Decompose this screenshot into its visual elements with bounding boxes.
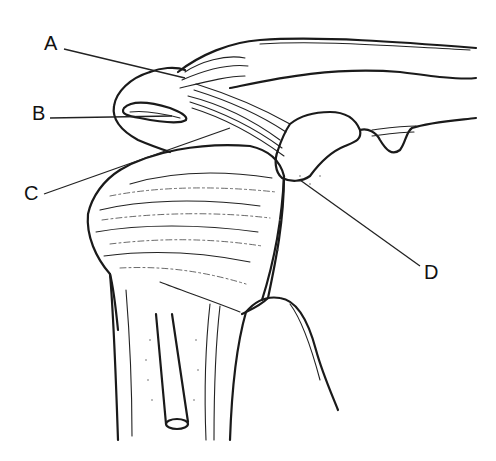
leader-lines <box>44 49 420 266</box>
acromion <box>114 68 187 152</box>
coracoid <box>276 112 476 181</box>
anatomy-drawing <box>0 0 496 461</box>
shoulder-diagram: A B C D <box>0 0 496 461</box>
label-a: A <box>44 33 57 53</box>
stippling <box>145 175 321 401</box>
leader-b <box>50 116 172 118</box>
humeral-head <box>88 145 284 330</box>
leader-c <box>44 128 230 194</box>
label-d: D <box>424 262 438 282</box>
clavicle <box>178 39 476 88</box>
label-b: B <box>32 103 45 123</box>
joint-capsule <box>246 298 338 410</box>
leader-a <box>64 49 185 78</box>
label-c: C <box>24 183 38 203</box>
humerus-shaft <box>110 274 246 440</box>
ligament-fibers <box>180 57 290 156</box>
leader-d <box>300 180 420 266</box>
